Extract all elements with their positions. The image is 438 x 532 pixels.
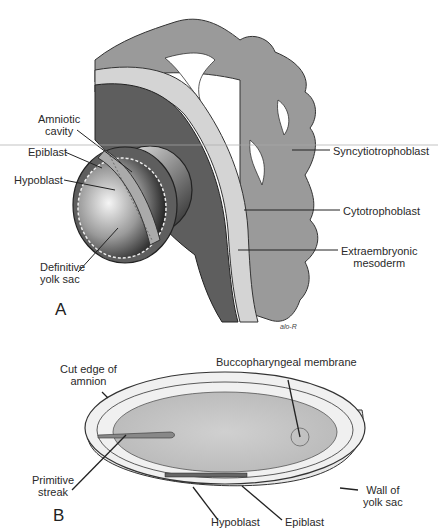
- label-cytotrophoblast: Cytotrophoblast: [343, 205, 420, 217]
- label-line: Cut edge of: [60, 363, 117, 375]
- panel-letter-a: A: [55, 300, 66, 320]
- label-line: mesoderm: [341, 257, 417, 269]
- label-buccopharyngeal-membrane: Buccopharyngeal membrane: [216, 356, 357, 368]
- label-line: Primitive: [32, 474, 74, 486]
- embryo-panel-b: [85, 372, 365, 486]
- label-wall-of-yolk-sac: Wall of yolk sac: [363, 484, 403, 508]
- embryonic-disc: [113, 392, 337, 472]
- label-extraembryonic-mesoderm: Extraembryonic mesoderm: [341, 245, 417, 269]
- artist-signature: alo-R: [280, 323, 297, 330]
- label-epiblast-a: Epiblast: [28, 146, 67, 158]
- label-line: amnion: [60, 375, 117, 387]
- label-epiblast-b: Epiblast: [285, 516, 324, 528]
- label-line: Amniotic: [38, 113, 80, 125]
- label-hypoblast-b: Hypoblast: [211, 516, 260, 528]
- label-line: streak: [32, 486, 74, 498]
- label-line: yolk sac: [363, 496, 403, 508]
- label-line: cavity: [38, 125, 80, 137]
- label-definitive-yolk-sac: Definitive yolk sac: [40, 261, 85, 285]
- label-line: Definitive: [40, 261, 85, 273]
- label-line: Wall of: [363, 484, 403, 496]
- label-syncytiotrophoblast: Syncytiotrophoblast: [333, 145, 429, 157]
- label-line: yolk sac: [40, 273, 85, 285]
- panel-letter-b: B: [53, 506, 64, 526]
- label-cut-edge-amnion: Cut edge of amnion: [60, 363, 117, 387]
- label-amniotic-cavity: Amniotic cavity: [38, 113, 80, 137]
- label-hypoblast-a: Hypoblast: [14, 174, 63, 186]
- label-line: Extraembryonic: [341, 245, 417, 257]
- label-primitive-streak: Primitive streak: [32, 474, 74, 498]
